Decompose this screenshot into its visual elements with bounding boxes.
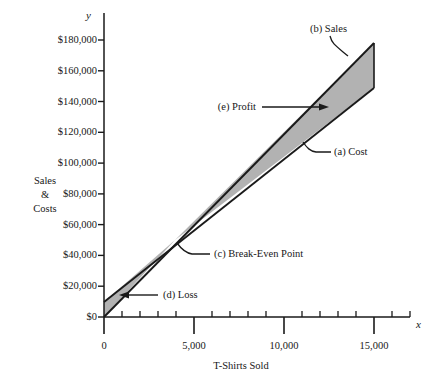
annotation-cost: (a) Cost (334, 146, 368, 157)
x-tick-label: 5,000 (182, 340, 206, 351)
y-axis-variable-label: y (86, 10, 91, 22)
y-tick-label: $120,000 (58, 126, 97, 137)
x-axis-major-ticks (104, 317, 374, 334)
annotation-loss: (d) Loss (163, 289, 198, 300)
annotation-profit: (e) Profit (218, 101, 256, 112)
break-even-leader-line (177, 243, 210, 254)
y-axis-title-line: Sales (33, 174, 56, 188)
x-tick-label: 0 (101, 340, 106, 351)
y-tick-label: $0 (87, 311, 98, 322)
cost-leader-line (303, 142, 331, 152)
annotation-sales: (b) Sales (310, 23, 347, 34)
y-tick-label: $160,000 (58, 65, 97, 76)
x-axis-minor-ticks (122, 311, 410, 317)
y-tick-label: $60,000 (63, 219, 97, 230)
y-tick-label: $80,000 (63, 188, 97, 199)
sales-leader-line (330, 36, 348, 56)
y-axis-title-line: Costs (33, 202, 56, 216)
x-axis-title: T-Shirts Sold (213, 360, 268, 371)
x-tick-label: 10,000 (270, 340, 299, 351)
y-tick-label: $140,000 (58, 96, 97, 107)
annotation-break-even-point: (c) Break-Even Point (214, 248, 303, 259)
sales-line (104, 43, 374, 317)
y-axis-ticks (98, 40, 104, 317)
y-tick-label: $20,000 (63, 280, 97, 291)
x-axis-variable-label: x (416, 319, 421, 331)
break-even-chart: y x $0 $20,000 $40,000 $60,000 $80,000 $… (0, 0, 446, 385)
y-axis-title: Sales & Costs (33, 174, 56, 216)
y-tick-label: $40,000 (63, 249, 97, 260)
y-tick-label: $100,000 (58, 157, 97, 168)
cost-line (104, 88, 374, 302)
y-axis-title-line: & (33, 188, 56, 202)
y-tick-label: $180,000 (58, 34, 97, 45)
x-tick-label: 15,000 (360, 340, 389, 351)
